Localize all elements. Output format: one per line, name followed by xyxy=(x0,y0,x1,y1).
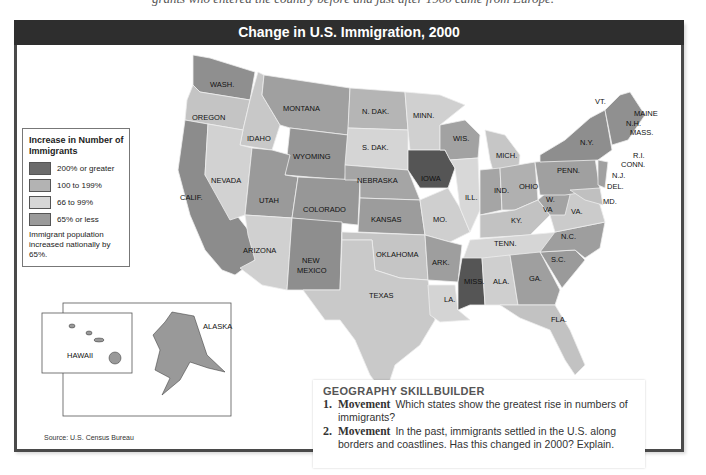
svg-text:ILL.: ILL. xyxy=(465,193,478,202)
svg-text:PENN.: PENN. xyxy=(557,166,580,175)
svg-text:UTAH: UTAH xyxy=(259,196,279,205)
svg-text:MISS.: MISS. xyxy=(464,277,484,286)
svg-text:IDAHO: IDAHO xyxy=(247,134,271,143)
map-legend: Increase in Number of Immigrants 200% or… xyxy=(22,128,130,267)
legend-swatch xyxy=(29,213,51,226)
svg-text:KY.: KY. xyxy=(511,216,522,225)
svg-text:ALASKA: ALASKA xyxy=(203,322,232,331)
svg-text:CONN.: CONN. xyxy=(621,160,645,169)
svg-text:S.C.: S.C. xyxy=(551,255,566,264)
svg-text:TEXAS: TEXAS xyxy=(369,291,394,300)
svg-text:OKLAHOMA: OKLAHOMA xyxy=(376,250,419,259)
legend-item: 100 to 199% xyxy=(29,179,124,192)
svg-text:ALA.: ALA. xyxy=(493,277,509,286)
svg-text:N.H.: N.H. xyxy=(626,119,641,128)
svg-text:N. DAK.: N. DAK. xyxy=(362,107,389,116)
svg-text:MICH.: MICH. xyxy=(496,151,517,160)
svg-text:MAINE: MAINE xyxy=(634,109,658,118)
svg-text:LA.: LA. xyxy=(444,295,455,304)
legend-note: Immigrant population increased nationall… xyxy=(29,230,124,260)
legend-item: 66 to 99% xyxy=(29,196,124,209)
svg-text:MO.: MO. xyxy=(433,215,447,224)
svg-text:COLORADO: COLORADO xyxy=(303,205,346,214)
svg-text:NEVADA: NEVADA xyxy=(211,176,241,185)
svg-text:IND.: IND. xyxy=(494,186,509,195)
legend-swatch xyxy=(29,162,51,175)
legend-item: 65% or less xyxy=(29,213,124,226)
svg-text:NEW: NEW xyxy=(302,256,320,265)
svg-text:OREGON: OREGON xyxy=(192,113,225,122)
skillbuilder-title: GEOGRAPHY SKILLBUILDER xyxy=(323,385,635,397)
svg-text:CALIF.: CALIF. xyxy=(180,193,203,202)
legend-item: 200% or greater xyxy=(29,162,124,175)
svg-text:GA.: GA. xyxy=(529,274,542,283)
svg-text:DEL.: DEL. xyxy=(607,182,624,191)
state-ny xyxy=(540,110,612,162)
svg-text:MINN.: MINN. xyxy=(413,111,434,120)
svg-text:TENN.: TENN. xyxy=(494,239,517,248)
svg-text:IOWA: IOWA xyxy=(421,174,441,183)
source-credit: Source: U.S. Census Bureau xyxy=(44,434,134,441)
svg-text:FLA.: FLA. xyxy=(551,315,567,324)
svg-text:WIS.: WIS. xyxy=(453,134,469,143)
question-item: 2. MovementIn the past, immigrants settl… xyxy=(323,425,635,451)
svg-text:N.Y.: N.Y. xyxy=(580,138,594,147)
svg-text:VA.: VA. xyxy=(571,207,583,216)
svg-text:NEBRASKA: NEBRASKA xyxy=(357,176,398,185)
svg-text:R.I.: R.I. xyxy=(633,151,645,160)
svg-text:OHIO: OHIO xyxy=(519,182,538,191)
legend-swatch xyxy=(29,196,51,209)
svg-text:HAWAII: HAWAII xyxy=(67,351,93,360)
svg-text:MEXICO: MEXICO xyxy=(297,266,327,275)
state-colorado xyxy=(292,177,360,225)
svg-text:S. DAK.: S. DAK. xyxy=(362,143,389,152)
svg-text:W.: W. xyxy=(546,195,555,204)
legend-swatch xyxy=(29,179,51,192)
question-item: 1. MovementWhich states show the greates… xyxy=(323,398,635,424)
svg-text:WASH.: WASH. xyxy=(210,80,234,89)
legend-title: Increase in Number of Immigrants xyxy=(29,135,124,157)
svg-text:ARIZONA: ARIZONA xyxy=(243,246,276,255)
svg-text:KANSAS: KANSAS xyxy=(371,215,401,224)
state-fla xyxy=(500,305,585,375)
svg-text:MD.: MD. xyxy=(603,197,617,206)
skillbuilder-box: GEOGRAPHY SKILLBUILDER 1. MovementWhich … xyxy=(313,380,645,468)
svg-text:N.C.: N.C. xyxy=(561,232,576,241)
svg-text:VA: VA xyxy=(543,205,552,214)
state-nm xyxy=(287,218,342,290)
svg-text:N.J.: N.J. xyxy=(612,171,625,180)
svg-text:MASS.: MASS. xyxy=(630,128,653,137)
svg-text:MONTANA: MONTANA xyxy=(283,104,320,113)
svg-text:VT.: VT. xyxy=(595,97,606,106)
svg-text:ARK.: ARK. xyxy=(432,258,450,267)
svg-text:WYOMING: WYOMING xyxy=(293,152,331,161)
